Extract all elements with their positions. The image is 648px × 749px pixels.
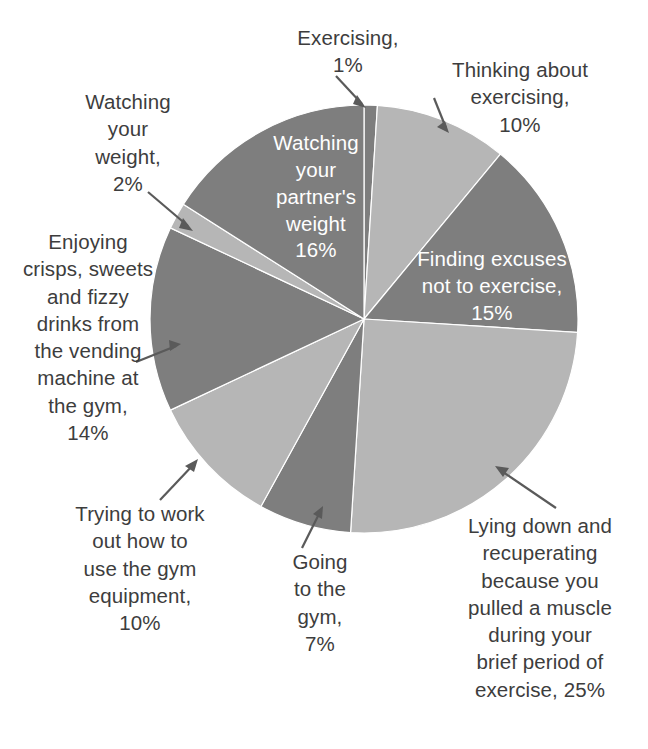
leader-line-lying (495, 466, 556, 508)
callout-label-going-to-the-gym: Going to the gym, 7% (258, 548, 382, 657)
pie-slice[interactable] (351, 319, 578, 533)
callout-label-trying-to-work-out: Trying to work out how to use the gym eq… (50, 500, 230, 636)
pie-chart-page: Exercising, 1% Thinking about exercising… (0, 0, 648, 749)
leader-line-trying (160, 459, 198, 500)
callout-label-enjoying-crisps: Enjoying crisps, sweets and fizzy drinks… (2, 228, 174, 446)
callout-label-watching-your-weight: Watching your weight, 2% (58, 88, 198, 197)
inner-label-finding-excuses: Finding excuses not to exercise, 15% (398, 246, 586, 327)
callout-label-exercising: Exercising, 1% (268, 24, 428, 79)
inner-label-watching-partners-weight: Watching your partner's weight 16% (248, 130, 384, 264)
leader-line-exercising (336, 76, 366, 108)
callout-label-lying-down-recuperating: Lying down and recuperating because you … (440, 512, 640, 703)
callout-label-thinking-about-exercising: Thinking about exercising, 10% (420, 56, 620, 138)
